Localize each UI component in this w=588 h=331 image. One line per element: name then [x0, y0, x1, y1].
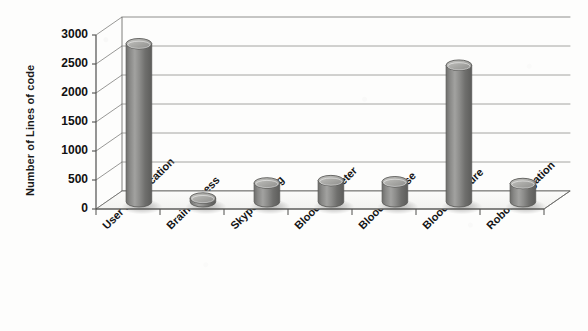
chart-container: Number of Lines of code 0500100015002000… — [0, 0, 588, 331]
bar — [121, 39, 162, 215]
plot-area — [0, 0, 588, 331]
bars — [121, 39, 546, 215]
